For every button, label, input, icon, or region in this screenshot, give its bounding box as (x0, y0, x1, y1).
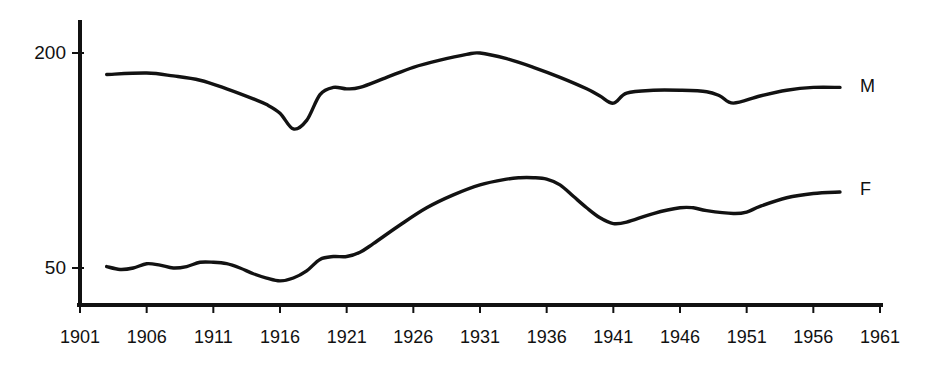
y-tick-label: 200 (34, 42, 66, 63)
x-tick-label: 1931 (460, 327, 500, 347)
line-chart: MF 1901190619111916192119261931193619411… (0, 0, 939, 366)
x-tick-label: 1941 (593, 327, 633, 347)
series-label-f: F (860, 179, 871, 199)
chart-canvas: MF 1901190619111916192119261931193619411… (0, 0, 939, 366)
x-tick-label: 1961 (860, 327, 900, 347)
y-tick-labels-group: 20050 (34, 42, 66, 278)
series-line-m (107, 53, 840, 129)
x-tick-label: 1911 (194, 327, 233, 347)
series-label-m: M (860, 76, 875, 96)
series-line-f (107, 178, 840, 281)
x-tick-label: 1901 (60, 327, 100, 347)
x-tick-label: 1951 (727, 327, 767, 347)
series-labels-group: MF (860, 76, 875, 199)
x-tick-label: 1916 (260, 327, 300, 347)
x-tick-label: 1956 (793, 327, 833, 347)
x-tick-label: 1936 (527, 327, 567, 347)
x-tick-labels-group: 1901190619111916192119261931193619411946… (60, 327, 900, 347)
x-tick-label: 1906 (127, 327, 167, 347)
x-tick-label: 1921 (327, 327, 367, 347)
x-tick-label: 1926 (393, 327, 433, 347)
x-tick-label: 1946 (660, 327, 700, 347)
series-group (107, 53, 840, 281)
y-tick-label: 50 (45, 257, 66, 278)
